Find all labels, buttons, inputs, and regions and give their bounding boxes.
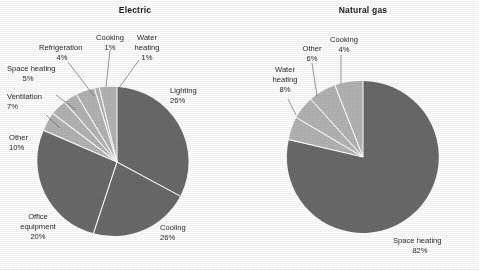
electric-title: Electric [119, 5, 151, 15]
label-gas-water-heating-l1: Water [275, 65, 295, 74]
label-ventilation-name: Ventilation [7, 92, 42, 101]
label-cooling-name: Cooling [160, 223, 186, 232]
label-gas-water-heating-value: 8% [280, 85, 291, 94]
label-cooking-name: Cooking [96, 33, 124, 42]
label-cooling-value: 26% [160, 233, 175, 242]
label-gas-other-name: Other [303, 44, 322, 53]
pie-charts-figure: Electric [0, 0, 479, 270]
natural-gas-chart: Natural gas Space heat [273, 5, 442, 255]
electric-chart: Electric [7, 5, 197, 242]
label-refrigeration-value: 4% [57, 53, 68, 62]
leader-gas-water-heating [288, 99, 296, 115]
label-gas-other-value: 6% [307, 54, 318, 63]
electric-pie-slices [37, 87, 188, 236]
label-lighting-name: Lighting [170, 86, 197, 95]
figure-canvas: Electric [0, 0, 479, 270]
label-refrigeration-name: Refrigeration [39, 43, 82, 52]
label-office-equipment-l2: equipment [20, 222, 56, 231]
label-gas-space-heating-value: 82% [412, 246, 427, 255]
label-ventilation-value: 7% [7, 102, 18, 111]
leader-gas-other [312, 63, 317, 96]
label-other-name: Other [9, 133, 28, 142]
label-office-equipment-l1: Office [28, 212, 48, 221]
leader-cooking [106, 50, 110, 87]
leader-water-heating [119, 60, 139, 88]
natural-gas-title: Natural gas [339, 5, 388, 15]
label-other-value: 10% [9, 143, 24, 152]
leader-refrigeration [68, 62, 94, 96]
label-lighting-value: 26% [170, 96, 185, 105]
label-water-heating-value: 1% [142, 53, 153, 62]
label-gas-cooking-name: Cooking [330, 35, 358, 44]
label-cooking-value: 1% [105, 43, 116, 52]
label-water-heating-l2: heating [135, 43, 160, 52]
label-gas-space-heating-name: Space heating [393, 236, 442, 245]
label-space-heating-name: Space heating [7, 64, 56, 73]
label-office-equipment-value: 20% [30, 232, 45, 241]
label-gas-cooking-value: 4% [339, 45, 350, 54]
label-water-heating-l1: Water [137, 33, 157, 42]
label-gas-water-heating-l2: heating [273, 75, 298, 84]
label-space-heating-value: 5% [23, 74, 34, 83]
